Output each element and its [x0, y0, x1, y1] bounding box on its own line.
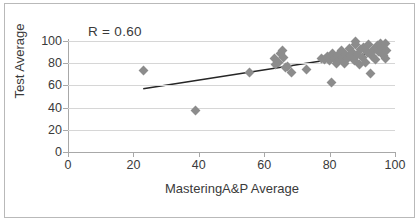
x-axis-tick-mark [330, 152, 331, 157]
x-axis-tick-mark [395, 152, 396, 157]
x-axis-tick-label: 100 [375, 159, 415, 172]
y-axis-title: Test Average [13, 1, 26, 121]
x-axis-tick-label: 60 [244, 159, 284, 172]
y-axis-tick-label: 0 [28, 146, 62, 159]
x-axis-line [68, 152, 396, 153]
plot-area [68, 41, 395, 152]
x-axis-tick-mark [264, 152, 265, 157]
y-axis-tick-mark [63, 41, 68, 42]
x-axis-tick-mark [199, 152, 200, 157]
y-axis-tick-labels: 020406080100 [26, 0, 62, 224]
x-axis-tick-mark [133, 152, 134, 157]
x-axis-tick-mark [68, 152, 69, 157]
x-axis-tick-label: 80 [310, 159, 350, 172]
x-axis-tick-label: 20 [113, 159, 153, 172]
y-axis-tick-mark [63, 63, 68, 64]
gridline-horizontal [68, 108, 395, 109]
y-axis-tick-label: 100 [28, 35, 62, 48]
correlation-annotation: R = 0.60 [88, 24, 142, 39]
x-axis-title: MasteringA&P Average [68, 181, 396, 196]
scatter-plot-figure: Test Average 020406080100 R = 0.60 Maste… [0, 0, 419, 224]
y-axis-tick-label: 40 [28, 102, 62, 115]
x-axis-tick-label: 0 [48, 159, 88, 172]
y-axis-tick-label: 80 [28, 57, 62, 70]
gridline-horizontal [68, 85, 395, 86]
y-axis-tick-mark [63, 108, 68, 109]
y-axis-tick-label: 60 [28, 79, 62, 92]
y-axis-tick-label: 20 [28, 124, 62, 137]
gridline-horizontal [68, 130, 395, 131]
gridline-horizontal [68, 41, 395, 42]
x-axis-tick-label: 40 [179, 159, 219, 172]
y-axis-tick-mark [63, 85, 68, 86]
y-axis-tick-mark [63, 130, 68, 131]
